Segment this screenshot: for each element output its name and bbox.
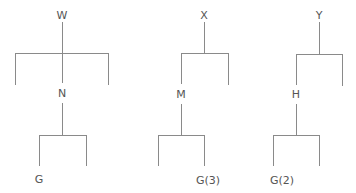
tree-2: X M G(3) [159, 9, 229, 187]
node-label-y: Y [315, 9, 323, 22]
node-label-g2: G(2) [270, 174, 294, 187]
node-label-g3: G(3) [196, 174, 220, 187]
node-label-g: G [35, 173, 44, 186]
node-label-w: W [57, 9, 68, 22]
tree-diagram: W N G X M G(3) Y H G(2) [0, 0, 356, 193]
tree-3: Y H G(2) [270, 9, 343, 187]
node-label-n: N [58, 87, 66, 100]
node-label-x: X [200, 9, 208, 22]
node-label-h: H [292, 88, 300, 101]
node-label-m: M [176, 88, 186, 101]
tree-1: W N G [16, 9, 109, 186]
